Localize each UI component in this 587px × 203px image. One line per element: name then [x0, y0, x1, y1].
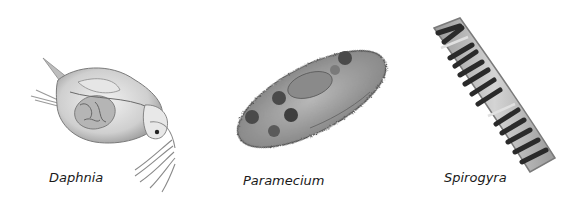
spirogyra-label: Spirogyra	[444, 170, 507, 185]
daphnia-figure: Daphnia	[0, 0, 200, 203]
paramecium-figure: Paramecium	[200, 0, 400, 203]
spirogyra-figure: Spirogyra	[400, 0, 587, 203]
paramecium-label: Paramecium	[243, 173, 324, 188]
daphnia-label: Daphnia	[49, 170, 103, 185]
